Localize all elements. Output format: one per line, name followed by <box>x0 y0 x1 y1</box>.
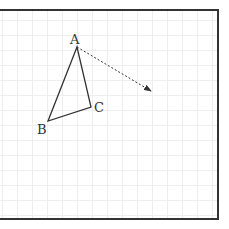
translation-vector-arrow <box>77 47 151 91</box>
grid-lines <box>0 10 218 219</box>
vertex-label-a: A <box>69 32 80 47</box>
triangle-abc <box>48 47 91 121</box>
diagram-svg: A B C <box>0 0 229 229</box>
vertex-label-c: C <box>94 100 104 115</box>
vertex-label-b: B <box>37 122 47 137</box>
diagram-canvas: A B C <box>0 0 229 229</box>
